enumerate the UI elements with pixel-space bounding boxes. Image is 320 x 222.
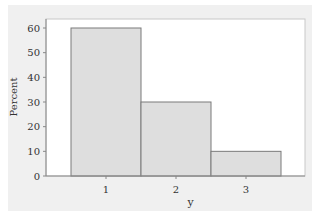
x-tick-label: 2 [173,184,179,195]
bar [71,28,141,176]
y-tick-label: 50 [27,47,40,58]
y-tick-label: 20 [27,121,40,132]
x-tick-label: 3 [243,184,249,195]
bar-chart: 1230102030405060yPercent [0,0,320,222]
y-axis-label: Percent [8,78,19,117]
y-tick-label: 30 [27,97,40,108]
x-axis-label: y [186,196,194,209]
y-tick-label: 0 [34,171,40,182]
y-tick-label: 60 [27,23,40,34]
y-tick-label: 40 [27,72,40,83]
chart-container: 1230102030405060yPercent [0,0,320,222]
x-tick-label: 1 [103,184,109,195]
bar [141,102,211,176]
y-tick-label: 10 [27,146,40,157]
bar [211,151,281,176]
